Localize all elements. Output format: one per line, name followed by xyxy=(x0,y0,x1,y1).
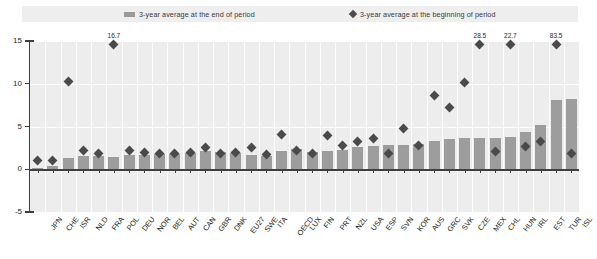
x-axis-tick xyxy=(434,170,435,173)
x-axis-tick xyxy=(358,170,359,173)
gridline-vertical xyxy=(427,41,428,212)
gridline-vertical xyxy=(411,41,412,212)
x-axis-label-usa: USA xyxy=(369,215,385,233)
x-axis-tick xyxy=(419,170,420,173)
x-axis-tick xyxy=(480,170,481,173)
y-axis-line xyxy=(29,41,30,212)
x-axis-tick xyxy=(251,170,252,173)
x-axis-label-chl: CHL xyxy=(506,215,522,232)
gridline-vertical xyxy=(549,41,550,212)
x-axis-tick xyxy=(556,170,557,173)
gridline-vertical xyxy=(198,41,199,212)
x-axis-tick xyxy=(465,170,466,173)
x-axis-label-svn: SVN xyxy=(399,215,415,233)
gridline-vertical xyxy=(350,41,351,212)
legend-item-beginning-of-period: 3-year average at the beginning of perio… xyxy=(350,6,496,22)
gridline-vertical xyxy=(122,41,123,212)
x-axis-tick xyxy=(38,170,39,173)
x-axis-tick xyxy=(297,170,298,173)
y-axis-cap xyxy=(29,211,34,212)
x-axis-tick xyxy=(282,170,283,173)
chart-legend: 3-year average at the end of period 3-ye… xyxy=(22,6,578,22)
x-axis-label-isl: ISL xyxy=(581,215,595,229)
x-axis-tick xyxy=(190,170,191,173)
gridline-vertical xyxy=(564,41,565,212)
bar xyxy=(276,151,287,169)
x-axis-label-isr: ISR xyxy=(78,215,93,230)
x-axis-label-mex: MEX xyxy=(491,215,508,233)
x-axis-tick xyxy=(327,170,328,173)
y-axis-tick xyxy=(25,169,29,170)
plot-area xyxy=(30,41,579,212)
x-axis-tick xyxy=(541,170,542,173)
bar xyxy=(398,145,409,169)
x-axis-label-dnk: DNK xyxy=(232,215,249,233)
bar xyxy=(32,168,43,170)
gridline-vertical xyxy=(228,41,229,212)
y-axis-cap xyxy=(29,40,34,41)
y-axis-tick xyxy=(25,126,29,127)
bar xyxy=(368,146,379,169)
bar xyxy=(200,151,211,169)
y-axis-tick xyxy=(25,83,29,84)
x-axis-label-nld: NLD xyxy=(94,215,110,232)
x-axis-label-pol: POL xyxy=(125,215,141,232)
y-axis-tick-label: 5 xyxy=(0,123,22,131)
x-axis-tick xyxy=(129,170,130,173)
bar xyxy=(535,125,546,169)
data-value-label: 22.7 xyxy=(497,32,523,39)
x-axis-tick xyxy=(510,170,511,173)
x-axis-tick xyxy=(449,170,450,173)
x-axis-label-nzl: NZL xyxy=(353,215,369,232)
x-axis-tick xyxy=(99,170,100,173)
gridline-vertical xyxy=(213,41,214,212)
bar xyxy=(551,100,562,169)
gridline-vertical xyxy=(305,41,306,212)
bar xyxy=(474,138,485,169)
diamond-swatch-icon xyxy=(349,10,357,18)
gridline-vertical xyxy=(244,41,245,212)
bar xyxy=(124,155,135,170)
y-axis-tick-label: -5 xyxy=(0,208,22,216)
x-axis-tick xyxy=(312,170,313,173)
gridline-vertical xyxy=(366,41,367,212)
gridline-vertical xyxy=(45,41,46,212)
data-value-label: 16.7 xyxy=(101,32,127,39)
x-axis-tick xyxy=(114,170,115,173)
gridline-vertical xyxy=(76,41,77,212)
gridline-vertical xyxy=(381,41,382,212)
x-axis-tick xyxy=(160,170,161,173)
x-axis-tick xyxy=(388,170,389,173)
x-axis-tick xyxy=(373,170,374,173)
x-axis-tick xyxy=(404,170,405,173)
gridline-vertical xyxy=(503,41,504,212)
gridline-vertical xyxy=(488,41,489,212)
bar xyxy=(93,156,104,169)
bar-swatch-icon xyxy=(124,12,135,17)
x-axis-label-aus: AUS xyxy=(430,215,446,233)
gridline-vertical xyxy=(518,41,519,212)
bar xyxy=(322,151,333,169)
x-axis-label-prt: PRT xyxy=(338,215,354,232)
x-axis-label-irl: IRL xyxy=(535,215,549,230)
y-axis-tick-label: 10 xyxy=(0,80,22,88)
x-axis-label-est: EST xyxy=(551,215,567,232)
x-axis-tick xyxy=(53,170,54,173)
bar xyxy=(246,155,257,170)
legend-label-end-of-period: 3-year average at the end of period xyxy=(139,10,255,19)
bar xyxy=(63,158,74,169)
x-axis-label-bel: BEL xyxy=(170,215,186,232)
x-axis-label-gbr: GBR xyxy=(217,215,234,233)
x-axis-tick xyxy=(571,170,572,173)
gridline-vertical xyxy=(457,41,458,212)
gridline-vertical xyxy=(61,41,62,212)
x-axis-tick xyxy=(236,170,237,173)
bar xyxy=(429,141,440,169)
x-axis-label-esp: ESP xyxy=(384,215,400,232)
bar xyxy=(566,99,577,169)
bar xyxy=(78,156,89,170)
x-axis-label-cze: CZE xyxy=(475,215,491,232)
chart-root: 3-year average at the end of period 3-ye… xyxy=(0,0,597,259)
gridline-vertical xyxy=(442,41,443,212)
bar xyxy=(459,138,470,169)
